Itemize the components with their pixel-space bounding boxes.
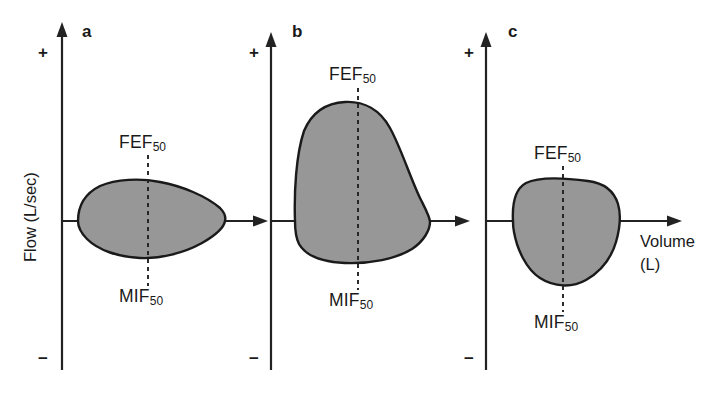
panel-b-mif50-text: MIF <box>329 290 360 310</box>
panel-c-mif50-label: MIF50 <box>534 314 578 332</box>
x-axis-label-volume: Volume <box>640 233 695 250</box>
panel-a-letter: a <box>82 23 91 40</box>
panel-c-mif50-subscript: 50 <box>565 320 578 334</box>
panel-a-mif50-subscript: 50 <box>150 294 163 308</box>
panel-c-flow-volume-loop <box>513 178 620 285</box>
y-axis-label: Flow (L/sec) <box>22 172 39 262</box>
panel-a-y-axis-arrowhead <box>57 22 68 37</box>
panel-c-fef50-label: FEF50 <box>534 145 581 163</box>
panel-b-mif50-subscript: 50 <box>360 298 373 312</box>
panel-c-group <box>481 32 683 370</box>
panel-b-positive-sign: + <box>249 44 259 61</box>
panel-b-y-axis-arrowhead <box>266 32 277 47</box>
flow-volume-loop-figure: Flow (L/sec) Volume (L) a b c + + + − − … <box>0 0 724 393</box>
panel-a-flow-volume-loop <box>78 180 225 258</box>
panel-c-fef50-text: FEF <box>534 143 568 163</box>
panel-c-negative-sign: − <box>464 350 474 367</box>
panel-a-mif50-label: MIF50 <box>119 288 163 306</box>
panel-a-positive-sign: + <box>38 44 48 61</box>
panel-a-negative-sign: − <box>38 350 48 367</box>
panel-b-fef50-label: FEF50 <box>329 66 376 84</box>
panel-c-letter: c <box>508 23 517 40</box>
panel-b-fef50-subscript: 50 <box>363 72 376 86</box>
panel-a-fef50-label: FEF50 <box>119 134 166 152</box>
panel-c-x-axis-arrowhead <box>667 216 682 227</box>
panel-c-fef50-subscript: 50 <box>568 151 581 165</box>
panel-c-mif50-text: MIF <box>534 312 565 332</box>
figure-canvas <box>0 0 724 393</box>
x-axis-label-units: (L) <box>640 256 660 273</box>
panel-a-group <box>57 22 269 370</box>
panel-a-fef50-subscript: 50 <box>153 140 166 154</box>
panel-b-flow-volume-loop <box>295 102 430 263</box>
panel-c-positive-sign: + <box>464 44 474 61</box>
panel-b-negative-sign: − <box>249 350 259 367</box>
panel-a-x-axis-arrowhead <box>253 216 268 227</box>
panel-b-x-axis-arrowhead <box>455 216 470 227</box>
panel-a-mif50-text: MIF <box>119 286 150 306</box>
panel-c-y-axis-arrowhead <box>481 32 492 47</box>
panel-b-letter: b <box>292 23 302 40</box>
panel-a-fef50-text: FEF <box>119 132 153 152</box>
panel-b-mif50-label: MIF50 <box>329 292 373 310</box>
panel-b-fef50-text: FEF <box>329 64 363 84</box>
